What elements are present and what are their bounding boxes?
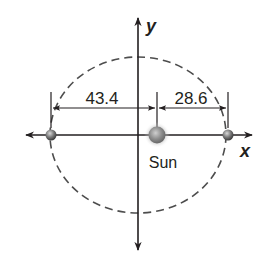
x-axis-label: x (239, 141, 251, 161)
sun-icon (149, 127, 166, 144)
right-distance-label: 28.6 (174, 89, 207, 108)
orbit-diagram: 43.4 28.6 Sun y x (0, 0, 264, 263)
planet-perihelion-icon (223, 130, 234, 141)
planet-aphelion-icon (46, 130, 57, 141)
sun-label: Sun (149, 154, 177, 171)
left-distance-label: 43.4 (85, 89, 118, 108)
y-axis-label: y (145, 16, 157, 36)
